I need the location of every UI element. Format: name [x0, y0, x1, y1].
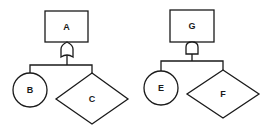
or-gate-icon: [61, 42, 73, 57]
connector-bus-left: [30, 65, 92, 73]
top-event-g: G: [170, 10, 214, 42]
tree-right: G E F: [144, 10, 259, 118]
top-event-a: A: [45, 11, 88, 42]
event-label-c: C: [89, 94, 96, 104]
connector-bus-right: [161, 61, 223, 71]
and-gate-icon: [186, 42, 198, 54]
basic-event-e: E: [144, 71, 178, 105]
undeveloped-event-f: F: [187, 70, 259, 118]
event-label-g: G: [188, 21, 195, 31]
event-label-f: F: [220, 89, 226, 99]
event-label-b: B: [27, 85, 34, 95]
event-label-a: A: [63, 22, 70, 32]
undeveloped-event-c: C: [56, 73, 128, 124]
tree-left: A B C: [13, 11, 128, 124]
event-label-e: E: [158, 83, 164, 93]
basic-event-b: B: [13, 73, 47, 107]
fault-tree-diagram: A B C G E F: [0, 0, 273, 132]
